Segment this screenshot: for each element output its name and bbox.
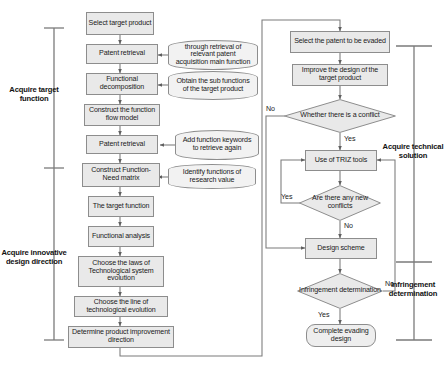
- node-complete-evading-design[interactable]: Complete evading design: [306, 324, 376, 347]
- edge-label-conflict-no: No: [266, 105, 275, 113]
- decision-are-there-any-new-conflicts[interactable]: Are there any new conflicts: [299, 185, 381, 221]
- node-improve-design-of-target-product[interactable]: Improve the design of the target product: [292, 64, 388, 86]
- decision-label-whether-conflict: Whether there is a conflict: [284, 99, 396, 133]
- node-patent-retrieval-1[interactable]: Patent retrieval: [86, 44, 158, 64]
- node-choose-laws-of-technological-system-evolution[interactable]: Choose the laws of Technological system …: [78, 256, 164, 287]
- annotation-obtain-sub-functions: Obtain the sub functions of the target p…: [168, 71, 258, 100]
- bracket-label-acquire-innovative-design-direction: Acquire innovative design direction: [0, 249, 68, 266]
- edge-label-infringement-yes: Yes: [318, 311, 330, 319]
- bracket-label-acquire-technical-solution: Acquire technical solution: [378, 143, 448, 160]
- node-the-target-function[interactable]: The target function: [88, 196, 154, 217]
- node-functional-analysis[interactable]: Functional analysis: [88, 226, 154, 247]
- decision-infringement-determination[interactable]: Infringement determination: [297, 273, 383, 309]
- annotation-add-function-keywords: Add function keywords to retrieve again: [175, 130, 259, 160]
- decision-whether-there-is-a-conflict[interactable]: Whether there is a conflict: [284, 99, 396, 133]
- flowchart-canvas: Select target product Patent retrieval F…: [0, 0, 448, 368]
- node-determine-product-improvement-direction[interactable]: Determine product improvement direction: [68, 326, 174, 348]
- bracket-label-acquire-target-function: Acquire target function: [0, 86, 68, 103]
- edge-label-new-conflicts-yes: Yes: [281, 193, 293, 201]
- edge-label-new-conflicts-no: No: [344, 222, 353, 230]
- node-patent-retrieval-2[interactable]: Patent retrieval: [86, 135, 158, 154]
- decision-label-infringement: Infringement determination: [297, 273, 383, 309]
- annotation-identify-functions-research-value: Identify functions of research value: [168, 164, 256, 189]
- node-select-patent-to-be-evaded[interactable]: Select the patent to be evaded: [290, 31, 390, 53]
- node-use-of-triz-tools[interactable]: Use of TRIZ tools: [305, 150, 377, 171]
- decision-label-new-conflicts: Are there any new conflicts: [299, 185, 381, 221]
- node-construct-function-flow-model[interactable]: Construct the function flow model: [84, 104, 160, 126]
- annotation-patent-acquisition-main-function: through retrieval of relevant patent acq…: [168, 40, 258, 70]
- bracket-label-infringement-determination: Infringement determination: [378, 281, 448, 298]
- node-functional-decomposition[interactable]: Functional decomposition: [86, 73, 158, 95]
- node-select-target-product[interactable]: Select target product: [86, 12, 154, 35]
- node-design-scheme[interactable]: Design scheme: [305, 238, 377, 259]
- node-construct-function-need-matrix[interactable]: Construct Function-Need matrix: [82, 163, 160, 187]
- edge-label-conflict-yes: Yes: [344, 135, 356, 143]
- node-choose-line-of-technological-evolution[interactable]: Choose the line of technological evoluti…: [74, 296, 168, 317]
